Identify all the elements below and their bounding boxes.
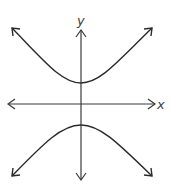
lower-branch [12,125,152,176]
x-axis-label: x [156,97,165,112]
y-axis-label: y [76,13,85,28]
y-axis [76,30,86,180]
hyperbola-diagram: y x [0,0,172,186]
upper-branch [12,28,152,83]
